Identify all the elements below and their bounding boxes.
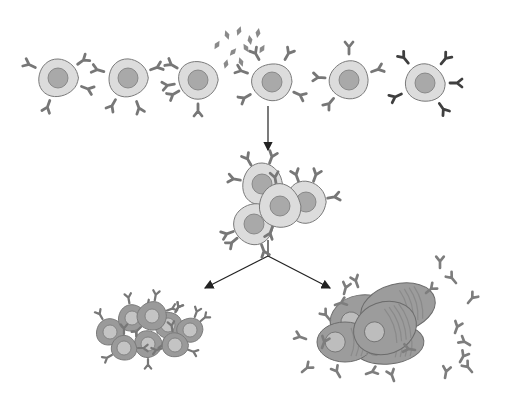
receptor-icon xyxy=(23,59,37,71)
resting-b-cell xyxy=(91,59,163,114)
b-cell-diagram xyxy=(0,0,509,410)
antigen-particles xyxy=(212,25,266,69)
receptor-icon xyxy=(152,290,160,301)
receptor-icon xyxy=(225,235,239,249)
nucleus xyxy=(244,214,264,234)
receptor-icon xyxy=(133,100,145,114)
antibody-icon xyxy=(331,365,343,379)
nucleus xyxy=(103,325,117,339)
antibody-icon xyxy=(462,361,475,375)
resting-b-cell xyxy=(162,59,218,116)
antibody-icon xyxy=(451,321,462,334)
antibody-icon xyxy=(294,332,307,343)
receptor-icon xyxy=(187,347,198,356)
receptor-icon xyxy=(125,293,133,304)
receptor-icon xyxy=(192,307,201,318)
receptor-icon xyxy=(228,174,241,184)
antigen-icon xyxy=(255,28,262,39)
receptor-icon xyxy=(266,151,278,165)
antibody-icon xyxy=(340,282,350,295)
receptor-icon xyxy=(242,153,255,167)
antibody-icon xyxy=(441,366,450,379)
antigen-icon xyxy=(212,39,221,50)
proliferating-clone xyxy=(221,151,340,258)
receptor-icon xyxy=(165,59,179,72)
nucleus xyxy=(117,341,131,355)
receptor-icon xyxy=(323,96,337,110)
receptor-icon xyxy=(167,88,181,101)
nucleus xyxy=(262,72,282,92)
receptor-icon xyxy=(313,73,326,82)
arrow-left-icon xyxy=(205,256,268,288)
antigen-icon xyxy=(222,59,229,70)
receptor-icon xyxy=(91,65,105,76)
nucleus xyxy=(339,70,359,90)
receptor-icon xyxy=(75,54,89,67)
nucleus xyxy=(168,338,182,352)
resting-b-cell xyxy=(23,54,94,113)
receptor-icon xyxy=(194,104,202,116)
nucleus xyxy=(48,68,68,88)
arrow-right-icon xyxy=(268,256,330,288)
resting-b-cell xyxy=(313,42,384,110)
antibody-icon xyxy=(446,272,459,286)
resting-b-cell xyxy=(235,47,306,104)
receptor-icon xyxy=(345,42,353,54)
receptor-icon xyxy=(95,309,105,321)
antibody-icon xyxy=(351,275,362,288)
memory-cells xyxy=(95,290,210,368)
receptor-icon xyxy=(221,228,235,240)
antigen-icon xyxy=(235,25,243,36)
antigen-icon xyxy=(223,29,231,40)
receptor-icon xyxy=(389,90,403,102)
receptor-icon xyxy=(438,52,452,66)
receptor-icon xyxy=(327,192,340,202)
nucleus xyxy=(183,323,197,337)
receptor-icon xyxy=(398,51,412,65)
antigen-icon xyxy=(228,47,238,58)
receptor-icon xyxy=(102,352,114,362)
nucleus xyxy=(118,68,138,88)
antibody-icon xyxy=(465,292,478,306)
resting-b-cell xyxy=(389,51,462,115)
receptor-icon xyxy=(291,169,303,183)
receptor-icon xyxy=(42,99,54,113)
receptor-icon xyxy=(238,91,252,104)
plasma-cells xyxy=(317,275,441,367)
receptor-icon xyxy=(450,79,462,87)
antibody-icon xyxy=(365,367,378,378)
antibody-icon xyxy=(387,369,398,382)
receptor-icon xyxy=(282,47,295,61)
resting-cells-row xyxy=(23,42,462,116)
nucleus xyxy=(145,309,159,323)
nucleus xyxy=(270,196,290,216)
receptor-icon xyxy=(106,98,119,112)
receptor-icon xyxy=(235,65,249,77)
nucleus xyxy=(415,73,435,93)
receptor-icon xyxy=(370,64,384,76)
receptor-icon xyxy=(292,89,306,101)
receptor-icon xyxy=(149,62,163,74)
receptor-icon xyxy=(162,80,175,90)
antibody-icon xyxy=(458,336,472,348)
antibody-icon xyxy=(300,362,314,375)
antigen-icon xyxy=(257,43,266,54)
antigen-icon xyxy=(247,35,254,46)
antibody-icon xyxy=(436,257,444,268)
receptor-icon xyxy=(145,359,151,369)
nucleus xyxy=(325,332,345,352)
receptor-icon xyxy=(436,101,449,115)
receptor-icon xyxy=(80,83,94,95)
receptor-icon xyxy=(310,169,322,183)
nucleus xyxy=(188,70,208,90)
